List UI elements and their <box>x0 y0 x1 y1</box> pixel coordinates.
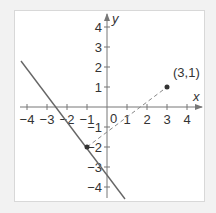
origin-label: 0 <box>110 111 117 126</box>
y-tick-label: 2 <box>95 60 102 75</box>
x-tick-label: 4 <box>183 112 190 127</box>
x-tick-label: −4 <box>20 112 35 127</box>
x-axis-label: x <box>192 89 200 104</box>
x-tick-label: 2 <box>143 112 150 127</box>
y-tick-label: −3 <box>87 160 102 175</box>
y-axis-label: y <box>111 11 120 26</box>
x-tick-label: 1 <box>123 112 130 127</box>
y-tick-label: −1 <box>87 120 102 135</box>
y-tick-label: 3 <box>95 40 102 55</box>
coordinate-plane: xy0 −4−3−2−112344321−1−2−3−4 (3,1) <box>0 0 216 213</box>
y-tick-label: 1 <box>95 80 102 95</box>
point-label: (3,1) <box>173 65 200 80</box>
y-tick-label: 4 <box>95 20 102 35</box>
x-tick-label: −3 <box>40 112 55 127</box>
y-tick-label: −4 <box>87 180 102 195</box>
dashed-line <box>87 87 167 147</box>
point <box>165 85 170 90</box>
x-tick-label: 3 <box>163 112 170 127</box>
point <box>85 145 90 150</box>
